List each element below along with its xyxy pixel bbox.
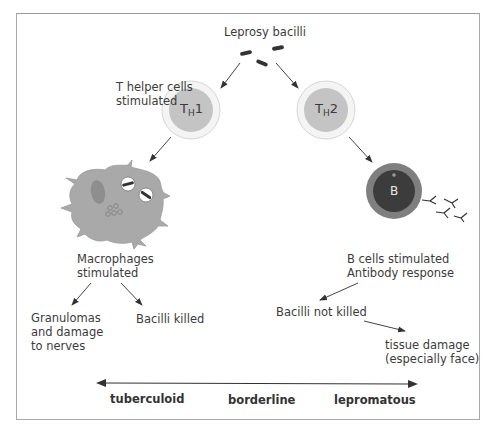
arrow-bacilli-to-th1 [221,63,240,88]
th1-label-num: 1 [195,101,203,116]
granulomas-label-line3: to nerves [31,339,85,353]
spectrum-tuberculoid-label: tuberculoid [110,392,184,406]
arrow-th2-to-bcell [349,137,372,162]
spectrum-arrow [96,379,418,388]
spectrum-lepromatous-label: lepromatous [334,393,416,407]
bacilli-killed-label: Bacilli killed [136,312,204,326]
th2-label-main: T [315,101,323,116]
tissue-damage-label-line1: tissue damage [385,338,470,352]
granulomas-label-line1: Granulomas [31,311,101,325]
b-cell-label: B [390,184,398,198]
th2-label: TH2 [315,102,338,117]
arrow-bacilli-to-th2 [276,63,298,88]
macrophage-icon [61,160,170,249]
arrow-to-tissue-damage [364,321,405,331]
leprosy-bacilli-label: Leprosy bacilli [224,25,306,39]
t-helper-label-line2: stimulated [116,94,177,108]
th1-label-sub: H [188,108,195,118]
macrophages-label-line1: Macrophages [77,252,154,266]
th2-label-sub: H [323,108,330,118]
diagram-canvas [0,0,494,436]
arrow-to-bacilli-killed [121,283,142,305]
b-cells-label-line2: Antibody response [347,266,454,280]
b-cells-label-line1: B cells stimulated [347,252,449,266]
bacilli-icon [240,45,285,67]
arrow-th1-to-macrophage [150,137,171,161]
antibody-icons [422,196,467,222]
th2-label-num: 2 [330,101,338,116]
arrow-to-bacilli-not-killed [320,283,358,300]
arrow-to-granulomas [72,283,91,305]
tissue-damage-label-line2: (especially face) [385,352,479,366]
bacilli-not-killed-label: Bacilli not killed [276,305,367,319]
macrophages-label-line2: stimulated [77,266,138,280]
granulomas-label-line2: and damage [31,325,103,339]
spectrum-borderline-label: borderline [228,393,295,407]
th1-label: TH1 [180,102,203,117]
th1-label-main: T [180,101,188,116]
t-helper-label-line1: T helper cells [116,80,193,94]
